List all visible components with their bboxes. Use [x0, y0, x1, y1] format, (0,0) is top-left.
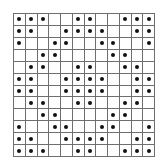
grid-cell [49, 62, 61, 74]
dot-icon [41, 113, 45, 117]
grid-cell [132, 50, 144, 62]
dot-icon [123, 113, 127, 117]
grid-cell [120, 62, 132, 74]
dot-icon [76, 101, 80, 105]
grid-cell [14, 133, 26, 145]
grid-cell [49, 133, 61, 145]
grid-cell [108, 86, 120, 98]
dot-grid [13, 13, 155, 157]
grid-cell [38, 145, 50, 157]
grid-cell [73, 14, 85, 26]
grid-cell [108, 97, 120, 109]
grid-cell [96, 62, 108, 74]
grid-cell [61, 133, 73, 145]
grid-cell [96, 121, 108, 133]
dot-icon [17, 89, 21, 93]
grid-cell [26, 97, 38, 109]
grid-cell [49, 109, 61, 121]
dot-icon [53, 125, 57, 129]
grid-cell [120, 145, 132, 157]
grid-cell [38, 86, 50, 98]
grid-cell [73, 109, 85, 121]
dot-icon [100, 125, 104, 129]
grid-cell [61, 50, 73, 62]
dot-icon [135, 65, 139, 69]
grid-cell [132, 145, 144, 157]
grid-cell [108, 121, 120, 133]
grid-cell [132, 121, 144, 133]
dot-icon [17, 149, 21, 153]
dot-icon [88, 101, 92, 105]
grid-cell [96, 38, 108, 50]
dot-icon [76, 17, 80, 21]
dot-icon [100, 137, 104, 141]
dot-icon [88, 149, 92, 153]
grid-cell [96, 26, 108, 38]
dot-icon [29, 101, 33, 105]
dot-icon [135, 77, 139, 81]
dot-icon [76, 137, 80, 141]
dot-icon [41, 101, 45, 105]
dot-icon [88, 77, 92, 81]
dot-icon [17, 41, 21, 45]
grid-cell [120, 121, 132, 133]
grid-cell [85, 109, 97, 121]
dot-icon [41, 65, 45, 69]
dot-icon [111, 125, 115, 129]
grid-cell [85, 97, 97, 109]
grid-cell [143, 62, 155, 74]
dot-icon [88, 89, 92, 93]
grid-cell [61, 86, 73, 98]
dot-icon [123, 65, 127, 69]
grid-cell [26, 133, 38, 145]
dot-icon [88, 29, 92, 33]
grid-cell [132, 133, 144, 145]
grid-cell [61, 121, 73, 133]
grid-cell [14, 14, 26, 26]
grid-cell [49, 97, 61, 109]
grid-cell [108, 38, 120, 50]
grid-cell [120, 14, 132, 26]
grid-cell [143, 86, 155, 98]
grid-cell [38, 26, 50, 38]
dot-icon [29, 149, 33, 153]
dot-icon [111, 41, 115, 45]
dot-icon [53, 53, 57, 57]
grid-cell [85, 121, 97, 133]
dot-icon [135, 101, 139, 105]
grid-cell [108, 74, 120, 86]
grid-cell [14, 97, 26, 109]
grid-cell [120, 50, 132, 62]
dot-icon [64, 41, 68, 45]
grid-cell [14, 62, 26, 74]
dot-icon [29, 65, 33, 69]
grid-cell [73, 26, 85, 38]
grid-cell [14, 38, 26, 50]
grid-cell [49, 74, 61, 86]
dot-icon [123, 149, 127, 153]
grid-cell [143, 14, 155, 26]
grid-cell [108, 133, 120, 145]
grid-cell [96, 133, 108, 145]
grid-cell [120, 109, 132, 121]
dot-icon [147, 149, 151, 153]
grid-cell [61, 74, 73, 86]
dot-icon [88, 65, 92, 69]
grid-cell [61, 26, 73, 38]
grid-cell [49, 145, 61, 157]
dot-icon [100, 29, 104, 33]
grid-cell [26, 50, 38, 62]
grid-cell [120, 97, 132, 109]
grid-cell [73, 38, 85, 50]
dot-icon [17, 125, 21, 129]
dot-icon [76, 65, 80, 69]
grid-cell [143, 133, 155, 145]
dot-icon [123, 53, 127, 57]
dot-icon [123, 17, 127, 21]
dot-icon [123, 101, 127, 105]
grid-cell [120, 26, 132, 38]
grid-cell [85, 133, 97, 145]
grid-cell [14, 86, 26, 98]
grid-cell [14, 26, 26, 38]
grid-cell [26, 38, 38, 50]
